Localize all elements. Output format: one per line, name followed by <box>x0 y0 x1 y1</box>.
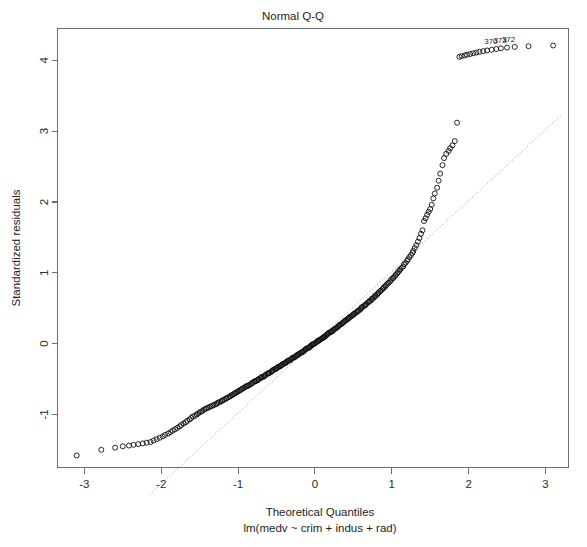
data-point <box>440 163 445 168</box>
y-tick-label: -1 <box>39 409 51 419</box>
data-point <box>432 191 437 196</box>
data-point <box>526 44 531 49</box>
x-tick-label: 0 <box>312 478 318 490</box>
y-tick-label: 0 <box>39 340 51 346</box>
x-tick-label: 1 <box>389 478 395 490</box>
data-points-group <box>74 43 555 458</box>
data-point <box>157 435 162 440</box>
data-point-label: 373 <box>493 36 507 45</box>
data-point <box>436 178 441 183</box>
y-tick-label: 3 <box>39 128 51 134</box>
data-point <box>435 185 440 190</box>
plot-frame <box>58 29 569 468</box>
data-point <box>455 120 460 125</box>
x-axis-ticks: -3-2-10123 <box>79 468 548 490</box>
data-point <box>551 43 556 48</box>
x-tick-label: -3 <box>79 478 89 490</box>
qq-reference-line <box>150 116 561 495</box>
plot-subtitle: lm(medv ~ crim + indus + rad) <box>243 522 396 534</box>
x-tick-label: -2 <box>156 478 166 490</box>
y-tick-label: 2 <box>39 199 51 205</box>
x-axis: -3-2-10123 <box>58 468 569 490</box>
data-point <box>74 453 79 458</box>
x-tick-label: 2 <box>465 478 471 490</box>
data-point <box>438 171 443 176</box>
data-point <box>431 196 436 201</box>
data-point <box>505 45 510 50</box>
data-point <box>151 438 156 443</box>
qq-plot-figure: 370372373 -3-2-10123 -101234 Normal Q-Q … <box>0 0 587 547</box>
data-point <box>512 44 517 49</box>
x-tick-label: 3 <box>542 478 548 490</box>
plot-title: Normal Q-Q <box>262 10 324 22</box>
x-tick-label: -1 <box>233 478 243 490</box>
qq-plot-canvas: 370372373 -3-2-10123 -101234 Normal Q-Q … <box>0 0 587 547</box>
y-axis-ticks: -101234 <box>39 57 58 420</box>
data-point <box>154 437 159 442</box>
data-point <box>452 139 457 144</box>
data-point <box>120 444 125 449</box>
x-axis-label: Theoretical Quantiles <box>266 506 375 518</box>
y-axis: -101234 <box>39 29 58 468</box>
point-labels-group: 370372373 <box>484 35 516 46</box>
y-tick-label: 1 <box>39 270 51 276</box>
data-point <box>113 445 118 450</box>
data-point <box>99 447 104 452</box>
y-tick-label: 4 <box>39 57 51 64</box>
y-axis-label: Standardized residuals <box>10 189 22 306</box>
